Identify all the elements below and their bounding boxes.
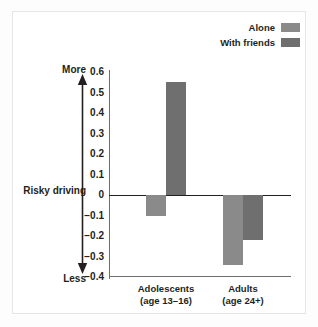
y-tick-label: −0.3 [84,252,104,262]
annotation-label-risky-driving: Risky driving [23,185,86,196]
legend-label-with-friends: With friends [220,37,275,48]
y-tick-label: 0.6 [90,67,104,77]
x-group-label: Adolescents(age 13–16) [138,283,195,307]
bar-with-friends-1 [243,195,263,240]
x-group-label-line1: Adolescents [138,283,195,295]
bar-alone-0 [146,195,166,216]
chart-figure: Alone With friends More Risky driving Le… [0,0,318,327]
legend-swatch-with-friends [281,38,300,47]
y-tick-label: 0 [98,190,104,200]
bar-alone-1 [223,195,243,265]
legend-swatch-alone [281,23,300,32]
y-tick-label: −0.2 [84,231,104,241]
y-tick-label: −0.1 [84,211,104,221]
bar-with-friends-0 [166,82,186,195]
y-tick-label: 0.4 [90,108,104,118]
y-tick-label: 0.3 [90,129,104,139]
x-group-label-line1: Adults [222,283,263,295]
double-headed-vertical-arrow-icon [77,74,88,274]
y-tick-label: 0.1 [90,170,104,180]
chart-plot-area: 0.60.50.40.30.20.10−0.1−0.2−0.3−0.4 Adol… [109,72,291,277]
y-tick-label: −0.4 [84,272,104,282]
legend-label-alone: Alone [249,22,275,33]
legend-entry-alone: Alone [249,22,300,33]
y-tick-label: 0.2 [90,149,104,159]
y-axis-line [109,70,110,279]
zero-baseline [109,195,291,196]
chart-legend: Alone With friends [220,22,300,48]
x-group-label-line2: (age 13–16) [138,295,195,307]
annotation-label-more: More [62,64,86,75]
annotation-label-less: Less [63,273,86,284]
legend-entry-with-friends: With friends [220,37,300,48]
x-group-label-line2: (age 24+) [222,295,263,307]
y-tick-label: 0.5 [90,88,104,98]
x-axis-line [109,276,291,277]
x-group-label: Adults(age 24+) [222,283,263,307]
